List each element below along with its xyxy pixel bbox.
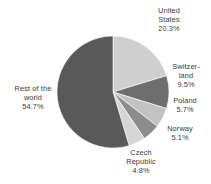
pie-label-norway: Norway 5.1% [158, 124, 202, 142]
pie-label-united-states: United States 20.3% [139, 6, 199, 34]
pie-label-poland: Poland 5.7% [162, 96, 208, 114]
pie-chart-figure: United States 20.3% Switzer- land 9.5% P… [0, 0, 211, 184]
pie-label-switzerland: Switzer- land 9.5% [162, 62, 210, 90]
pie-label-rest-of-world: Rest of the world 54.7% [2, 84, 64, 112]
pie-slice-group [57, 36, 169, 148]
pie-label-czech-republic: Czech Republic 4.8% [110, 148, 172, 176]
